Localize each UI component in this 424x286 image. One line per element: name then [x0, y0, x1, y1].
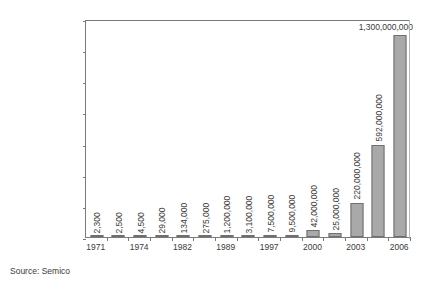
bar-slot: 7,500,000	[259, 21, 281, 237]
bar-slot: 275,000	[194, 21, 216, 237]
bar[interactable]	[394, 35, 407, 237]
plot-right-border	[409, 20, 410, 239]
x-axis-tick-label: 1971	[85, 242, 107, 252]
x-axis-tick-label: 2000	[302, 242, 324, 252]
bar[interactable]	[220, 235, 233, 237]
bar-value-label: 7,500,000	[266, 195, 275, 233]
bar-slot: 9,500,000	[281, 21, 303, 237]
bar[interactable]	[155, 235, 168, 237]
bar-chart: 0200,000,000400,000,000600,000,000800,00…	[0, 0, 424, 286]
bar-slot: 134,000	[173, 21, 195, 237]
x-axis-tick-label: 1989	[215, 242, 237, 252]
bar-value-label: 2,500	[114, 212, 123, 233]
bar-value-label: 29,000	[158, 207, 167, 233]
bar-slot: 592,000,000	[368, 21, 390, 237]
x-axis-tick-label: 1982	[172, 242, 194, 252]
bar[interactable]	[329, 233, 342, 237]
bar-value-label: 3,100,000	[244, 196, 253, 234]
bar-slot: 1,200,000	[216, 21, 238, 237]
bar[interactable]	[350, 203, 363, 237]
bar-value-label: 4,500	[136, 212, 145, 233]
bar-value-label: 25,000,000	[331, 188, 340, 231]
y-axis-tick-mark	[83, 52, 86, 53]
y-axis-tick-mark	[83, 21, 86, 22]
bar[interactable]	[90, 235, 103, 237]
bar-slot: 2,300	[86, 21, 108, 237]
bar[interactable]	[307, 230, 320, 237]
y-axis-tick-mark	[83, 146, 86, 147]
source-note: Source: Semico	[10, 266, 70, 276]
x-axis-tick-label: 2003	[345, 242, 367, 252]
y-axis-tick-mark	[83, 177, 86, 178]
y-axis-label-group: 0200,000,000400,000,000600,000,000800,00…	[0, 0, 80, 286]
bar[interactable]	[134, 235, 147, 237]
bar-value-label: 134,000	[179, 203, 188, 234]
bar-slot: 4,500	[129, 21, 151, 237]
bar-value-label: 42,000,000	[309, 185, 318, 228]
bar-value-label: 1,200,000	[223, 196, 232, 234]
bar-value-label: 1,300,000,000	[359, 23, 413, 32]
y-axis-tick-mark	[83, 83, 86, 84]
bar-slot: 2,500	[108, 21, 130, 237]
x-axis-tick-label: 2006	[388, 242, 410, 252]
bar[interactable]	[199, 235, 212, 237]
bar[interactable]	[112, 235, 125, 237]
x-axis-tick-label: 1974	[128, 242, 150, 252]
bar-slot: 29,000	[151, 21, 173, 237]
bar-slot: 1,300,000,000	[389, 21, 411, 237]
bar-slot: 25,000,000	[324, 21, 346, 237]
bar[interactable]	[242, 235, 255, 237]
bar-value-label: 9,500,000	[288, 195, 297, 233]
x-axis-tick-mark	[410, 237, 411, 241]
bar[interactable]	[372, 145, 385, 237]
bar-value-label: 592,000,000	[374, 95, 383, 142]
bar-slot: 42,000,000	[303, 21, 325, 237]
x-axis-label-group: 19711974198219891997200020032006	[85, 240, 410, 256]
x-axis-tick-label: 1997	[258, 242, 280, 252]
bar-slot: 3,100,000	[238, 21, 260, 237]
bar[interactable]	[285, 235, 298, 237]
bar-value-label: 220,000,000	[353, 152, 362, 199]
plot-area: 2,3002,5004,50029,000134,000275,0001,200…	[85, 20, 410, 238]
bar-series: 2,3002,5004,50029,000134,000275,0001,200…	[86, 21, 410, 237]
bar-slot: 220,000,000	[346, 21, 368, 237]
bar-value-label: 2,300	[93, 212, 102, 233]
bar[interactable]	[264, 235, 277, 237]
y-axis-tick-mark	[83, 208, 86, 209]
y-axis-tick-mark	[83, 114, 86, 115]
bar-value-label: 275,000	[201, 203, 210, 234]
bar[interactable]	[177, 235, 190, 237]
